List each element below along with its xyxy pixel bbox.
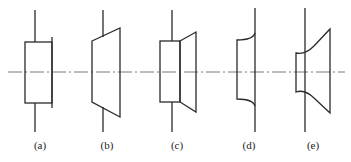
rect-a — [25, 42, 52, 103]
trapezoid-b — [92, 28, 120, 117]
label-b: (b) — [101, 139, 114, 151]
profile-b — [92, 10, 120, 132]
curved-profile-d — [237, 33, 255, 106]
flared-profile-e — [296, 29, 330, 113]
rect-c — [160, 41, 180, 102]
label-a: (a) — [34, 139, 46, 151]
diagram-canvas — [0, 0, 351, 162]
label-d: (d) — [243, 139, 256, 151]
profile-d — [237, 8, 255, 132]
label-c: (c) — [171, 139, 183, 151]
profile-e — [296, 8, 330, 132]
label-e: (e) — [307, 139, 319, 151]
profile-a — [25, 10, 52, 132]
profile-c — [160, 10, 196, 132]
